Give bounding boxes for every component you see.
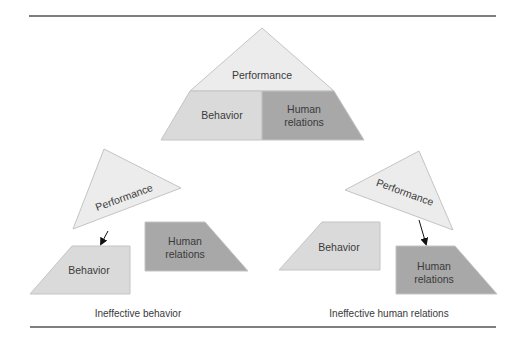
left-human-label-line2: relations <box>165 248 205 260</box>
right-human-label-line1: Human <box>417 260 451 272</box>
right-panel-ineffective-human-relations: Performance Behavior Human relations Ine… <box>279 151 497 319</box>
top-behavior-label: Behavior <box>201 109 243 121</box>
top-pyramid: Performance Behavior Human relations <box>161 28 364 140</box>
left-caption: Ineffective behavior <box>95 308 182 319</box>
performance-diagram: Performance Behavior Human relations Per… <box>0 0 526 342</box>
top-performance-section <box>190 28 334 91</box>
left-human-label-line1: Human <box>168 235 202 247</box>
right-human-label-line2: relations <box>414 273 454 285</box>
right-arrow <box>419 220 426 244</box>
top-human-label-line1: Human <box>287 103 321 115</box>
right-caption: Ineffective human relations <box>329 308 448 319</box>
left-behavior-label: Behavior <box>68 264 110 276</box>
top-performance-label: Performance <box>232 69 292 81</box>
left-panel-ineffective-behavior: Performance Behavior Human relations Ine… <box>30 149 248 319</box>
right-behavior-label: Behavior <box>318 241 360 253</box>
top-human-label-line2: relations <box>284 116 324 128</box>
left-arrow <box>101 231 108 244</box>
